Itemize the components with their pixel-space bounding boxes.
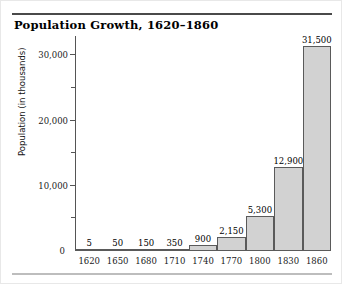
x-axis-tick-label: 1830: [278, 256, 300, 266]
bar-slot: 3501710: [160, 39, 188, 251]
bar[interactable]: 50: [103, 249, 131, 251]
figure-bottom-rule: [12, 273, 332, 275]
bar-slot: 1501680: [132, 39, 160, 251]
bar[interactable]: 5,300: [246, 216, 274, 251]
bar-value-label: 2,150: [219, 226, 243, 236]
x-axis-tick-label: 1710: [164, 256, 186, 266]
y-axis-tick-label: 20,000: [38, 116, 68, 126]
bar[interactable]: 5: [75, 249, 103, 251]
bar-slot: 9001740: [189, 39, 217, 251]
bar[interactable]: 12,900: [274, 167, 302, 251]
bar[interactable]: 150: [132, 249, 160, 251]
chart-title: Population Growth, 1620–1860: [14, 18, 218, 32]
x-axis-tick-label: 1800: [249, 256, 271, 266]
bar-value-label: 12,900: [273, 156, 303, 166]
bar[interactable]: 900: [189, 245, 217, 251]
bar-slot: 51620: [75, 39, 103, 251]
bar-slot: 2,1501770: [217, 39, 245, 251]
bar-value-label: 31,500: [302, 35, 332, 45]
chart-figure: Population Growth, 1620–1860 Population …: [0, 0, 342, 284]
bar-value-label: 350: [166, 238, 182, 248]
bar-value-label: 5: [87, 238, 92, 248]
bar-value-label: 150: [138, 238, 154, 248]
bar-slot: 31,5001860: [303, 39, 331, 251]
x-axis-tick-label: 1650: [107, 256, 129, 266]
bar-value-label: 5,300: [248, 205, 272, 215]
bar-slot: 501650: [103, 39, 131, 251]
bar-value-label: 50: [112, 238, 123, 248]
bar-slot: 12,9001830: [274, 39, 302, 251]
y-axis-zero-label: 0: [60, 246, 65, 256]
bar[interactable]: 2,150: [217, 237, 245, 251]
y-axis-title: Population (in thousands): [17, 47, 27, 156]
x-axis-tick-label: 1680: [135, 256, 157, 266]
x-axis-tick-label: 1740: [192, 256, 214, 266]
x-axis-tick-label: 1620: [78, 256, 100, 266]
x-axis-tick-label: 1770: [221, 256, 243, 266]
y-axis-tick-label: 10,000: [38, 181, 68, 191]
y-axis-tick-label: 30,000: [38, 50, 68, 60]
bar[interactable]: 350: [160, 249, 188, 251]
x-axis-tick-label: 1860: [306, 256, 328, 266]
bar-value-label: 900: [195, 234, 211, 244]
plot-area: 10,00020,00030,000 516205016501501680350…: [75, 39, 331, 251]
title-top-rule: [12, 13, 332, 15]
bar-slot: 5,3001800: [246, 39, 274, 251]
bar[interactable]: 31,500: [303, 46, 331, 251]
